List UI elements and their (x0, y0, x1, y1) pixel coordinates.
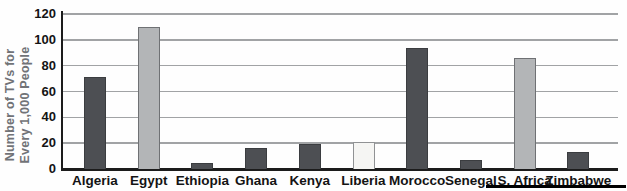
y-tick-label-100: 100 (16, 33, 56, 47)
y-tick-label-80: 80 (16, 59, 56, 73)
y-tick-label-40: 40 (16, 110, 56, 124)
bar-chart: Number of TVs for Every 1,000 People 020… (0, 0, 627, 191)
bar-egypt (138, 27, 160, 169)
bar-ghana (245, 148, 267, 169)
bar-ethiopia (191, 163, 213, 169)
bar-s-africa (514, 58, 536, 169)
bar-liberia (353, 142, 375, 169)
y-tick-label-120: 120 (16, 7, 56, 21)
bar-morocco (406, 48, 428, 169)
y-axis-line (61, 11, 63, 170)
y-axis-title: Number of TVs for Every 1,000 People (1, 30, 35, 180)
gridline-120 (62, 13, 618, 15)
bar-senegal (460, 160, 482, 169)
y-tick-label-20: 20 (16, 136, 56, 150)
bar-kenya (299, 144, 321, 169)
bottom-rule (486, 185, 626, 188)
bar-zimbabwe (567, 152, 589, 169)
y-tick-label-60: 60 (16, 85, 56, 99)
bar-algeria (84, 77, 106, 169)
